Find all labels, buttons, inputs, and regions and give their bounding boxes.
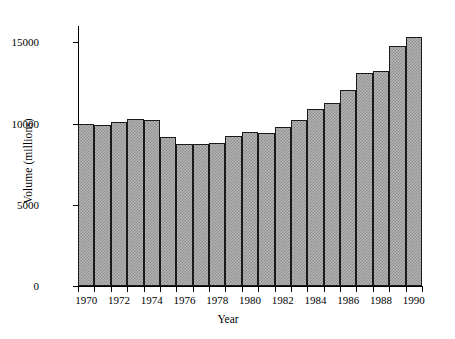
bar-1978 [209,143,225,286]
x-tick-10 [242,287,243,292]
x-axis-line [78,286,423,287]
bar-1984 [307,109,323,286]
x-tick-label-1990: 1990 [384,294,444,306]
bar-1989 [389,46,405,287]
bar-1986 [340,90,356,286]
bar-1972 [111,122,127,286]
x-tick-13 [291,287,292,292]
bar-1988 [373,71,389,286]
x-tick-15 [324,287,325,292]
bar-1980 [242,132,258,286]
x-tick-3 [127,287,128,292]
x-tick-18 [373,287,374,292]
bar-1976 [176,144,192,286]
x-tick-9 [225,287,226,292]
x-tick-12 [275,287,276,292]
x-tick-5 [160,287,161,292]
x-tick-7 [193,287,194,292]
bar-1970 [78,124,94,286]
y-tick-label-15000: 15000 [0,37,39,48]
bar-1987 [356,73,372,286]
plot-area: 050001000015000 197019721974197619781980… [78,26,422,286]
x-tick-19 [389,287,390,292]
bar-1973 [127,119,143,286]
x-tick-14 [307,287,308,292]
bar-1979 [225,136,241,286]
y-tick-label-0: 0 [0,281,39,292]
y-tick-10000 [73,124,79,125]
bar-1974 [144,120,160,286]
x-tick-0 [78,287,79,292]
bar-1985 [324,103,340,286]
x-tick-11 [258,287,259,292]
bar-chart-figure: Volume (millions) Year 050001000015000 1… [0,0,455,339]
bar-1971 [94,125,110,286]
bar-1983 [291,120,307,286]
bar-1977 [193,144,209,286]
x-tick-17 [356,287,357,292]
x-tick-4 [144,287,145,292]
bar-1982 [275,127,291,286]
y-tick-label-10000: 10000 [0,119,39,130]
y-tick-15000 [73,42,79,43]
x-tick-6 [176,287,177,292]
x-tick-20 [406,287,407,292]
x-tick-1 [94,287,95,292]
x-axis-title: Year [78,313,378,325]
y-tick-label-5000: 5000 [0,200,39,211]
x-tick-8 [209,287,210,292]
bar-1975 [160,137,176,287]
x-tick-21 [422,287,423,292]
x-tick-2 [111,287,112,292]
x-tick-16 [340,287,341,292]
y-tick-5000 [73,205,79,206]
bar-1990 [406,37,422,286]
bar-1981 [258,133,274,286]
y-axis-title: Volume (millions) [22,71,34,251]
